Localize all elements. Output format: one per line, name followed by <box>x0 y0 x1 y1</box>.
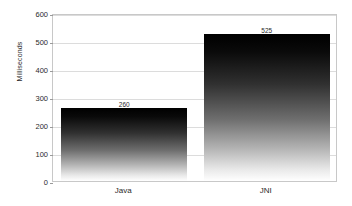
plot-area: 260525 <box>52 14 337 182</box>
bar-jni[interactable] <box>204 34 330 181</box>
y-axis-tick-label: 200 <box>35 122 48 131</box>
y-axis-tick-label: 0 <box>44 178 48 187</box>
x-axis-label-java: Java <box>115 186 132 195</box>
x-axis-category-labels: JavaJNI <box>52 186 337 202</box>
y-axis-tick-label: 100 <box>35 150 48 159</box>
bar-java[interactable] <box>61 108 187 181</box>
bar-value-label: 260 <box>119 101 130 108</box>
y-axis-title: Milliseconds <box>16 17 23 107</box>
y-axis-tickmark <box>50 183 53 184</box>
bars-layer: 260525 <box>53 15 336 181</box>
y-axis-tick-label: 400 <box>35 66 48 75</box>
bar-value-label: 525 <box>261 27 272 34</box>
bar-chart: Milliseconds 0100200300400500600 260525 … <box>0 0 352 206</box>
y-axis-tick-labels: 0100200300400500600 <box>24 0 48 206</box>
y-axis-tick-label: 500 <box>35 38 48 47</box>
x-axis-label-jni: JNI <box>260 186 272 195</box>
y-axis-tick-label: 600 <box>35 10 48 19</box>
y-axis-tick-label: 300 <box>35 94 48 103</box>
